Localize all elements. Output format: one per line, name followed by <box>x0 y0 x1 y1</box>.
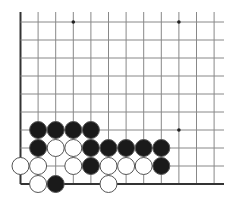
white-stone[interactable] <box>135 158 152 175</box>
black-stone[interactable] <box>153 158 170 175</box>
black-stone[interactable] <box>65 122 82 139</box>
go-board[interactable] <box>0 0 239 210</box>
white-stone[interactable] <box>118 158 135 175</box>
white-stone[interactable] <box>47 140 64 157</box>
black-stone[interactable] <box>100 140 117 157</box>
white-stone[interactable] <box>12 158 29 175</box>
star-point <box>72 20 76 24</box>
star-point <box>177 128 181 132</box>
white-stone[interactable] <box>30 176 47 193</box>
black-stone[interactable] <box>135 140 152 157</box>
black-stone[interactable] <box>118 140 135 157</box>
white-stone[interactable] <box>65 140 82 157</box>
white-stone[interactable] <box>65 158 82 175</box>
black-stone[interactable] <box>82 158 99 175</box>
black-stone[interactable] <box>47 176 64 193</box>
black-stone[interactable] <box>82 140 99 157</box>
star-point <box>177 20 181 24</box>
white-stone[interactable] <box>30 158 47 175</box>
black-stone[interactable] <box>47 122 64 139</box>
black-stone[interactable] <box>82 122 99 139</box>
black-stone[interactable] <box>153 140 170 157</box>
black-stone[interactable] <box>30 122 47 139</box>
white-stone[interactable] <box>100 176 117 193</box>
white-stone[interactable] <box>100 158 117 175</box>
black-stone[interactable] <box>30 140 47 157</box>
